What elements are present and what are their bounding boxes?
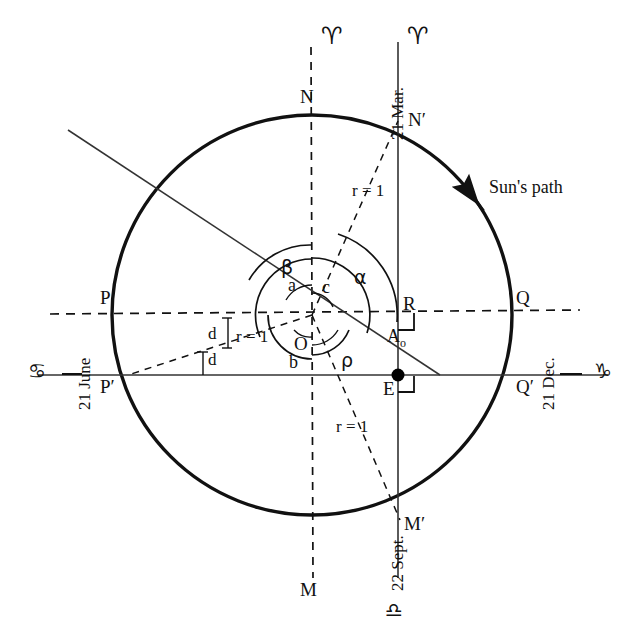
diagram-svg [0,0,644,636]
cancer-symbol: ♋ [28,361,46,381]
suns-path-label: Sun's path [489,178,563,196]
point-label-O: O [294,334,308,353]
measure-label-d-upper: d [208,325,217,342]
angle-label-rho: ρ [341,351,353,370]
point-label-R: R [403,294,416,313]
measure-label-d-lower: d [208,351,217,368]
aries-symbol-right: ♈ [407,24,429,48]
angle-label-alpha: α [354,268,367,287]
angle-arc-alpha [338,234,397,322]
measure-label-r1-lower: r = 1 [336,418,368,435]
point-label-N-prime: N′ [408,110,426,129]
point-label-A-subscript: o [400,336,406,350]
point-label-M-prime: M′ [404,514,425,533]
point-label-N: N [300,87,314,106]
radius-to-P-prime [128,315,312,375]
point-label-P: P [100,288,111,307]
angle-label-b: b [289,353,298,371]
measure-label-r1-left: r = 1 [236,328,268,345]
angle-arc-inner-4 [312,330,338,345]
angle-label-a: a [288,276,296,294]
date-label-22-sept: 22 Sept. [389,535,406,591]
capricorn-symbol: ♑ [594,361,612,381]
point-label-M: M [300,580,317,599]
measure-label-r1-upper: r = 1 [352,182,384,199]
libra-symbol: ♎ [385,600,403,620]
point-label-Q: Q [516,288,530,307]
point-label-P-prime: P′ [100,377,115,396]
point-label-A: A [387,326,400,346]
point-label-E: E [383,379,395,398]
aries-symbol-left: ♈ [321,24,343,48]
angle-arc-beta [249,245,311,280]
date-label-21-june: 21 June [76,358,93,410]
date-label-21-dec: 21 Dec. [540,357,557,410]
axis-horizontal-dashed [50,310,580,314]
date-label-21-mar: 21 Mar. [389,87,406,140]
point-label-A-sub-o: Ao [387,327,406,349]
diagram-canvas: ♈ ♈ ♋ ♑ ♎ 21 Mar. 21 June 21 Dec. 22 Sep… [0,0,644,636]
angle-label-c: c [322,278,330,296]
suns-path-direction-arrow [470,193,484,211]
point-label-Q-prime: Q′ [516,377,534,396]
